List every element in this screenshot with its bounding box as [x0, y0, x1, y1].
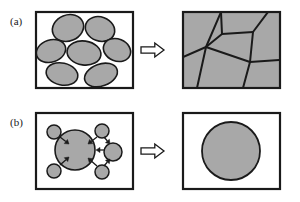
small-particle-5	[104, 143, 122, 161]
panel-b-before	[36, 113, 133, 189]
coarsened-particle	[202, 122, 260, 180]
panel-a-after	[183, 12, 280, 88]
grain-boundary-1-seg-1	[221, 12, 222, 34]
transformation-arrow-b	[141, 144, 164, 158]
transformation-arrow-a	[141, 43, 164, 57]
small-particle-4	[95, 165, 109, 179]
small-particle-3	[95, 124, 109, 138]
figure-canvas	[0, 0, 300, 202]
panel-a-before	[33, 10, 134, 91]
figure-root: (a) (b) Two coarsening mechanisms in par…	[0, 0, 300, 202]
diagram-row-a	[33, 10, 280, 91]
small-particle-2	[47, 164, 61, 178]
small-particle-1	[47, 125, 61, 139]
panel-b-after	[183, 113, 280, 189]
diagram-row-b	[36, 113, 280, 189]
